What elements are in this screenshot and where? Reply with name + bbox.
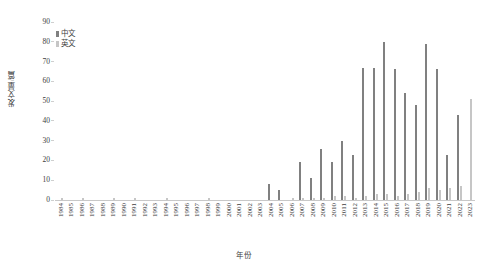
bar-en-1994 xyxy=(166,198,168,200)
bar-group xyxy=(213,22,224,200)
bar-en-2012 xyxy=(355,198,357,200)
bar-group xyxy=(307,22,318,200)
x-tick-2021: 2021 xyxy=(445,203,453,217)
legend-item-0: 中文 xyxy=(56,29,75,39)
x-tick-1985: 1985 xyxy=(67,203,75,217)
bar-group xyxy=(244,22,255,200)
bar-group xyxy=(454,22,465,200)
bar-cn-2021 xyxy=(446,155,448,200)
bar-cn-2014 xyxy=(373,68,375,201)
y-tick-90: 90 xyxy=(24,18,50,26)
bar-group xyxy=(255,22,266,200)
bar-chart: 发文量/篇 9080706050403020100 19841985198619… xyxy=(0,0,487,264)
bar-group xyxy=(234,22,245,200)
y-tick-80: 80 xyxy=(24,38,50,46)
bar-group xyxy=(360,22,371,200)
x-axis-tick-labels: 1984198519861987198819891990199119921993… xyxy=(55,203,475,247)
bar-group xyxy=(402,22,413,200)
x-tick-2014: 2014 xyxy=(372,203,380,217)
bar-group xyxy=(202,22,213,200)
x-tick-2001: 2001 xyxy=(235,203,243,217)
bar-en-2011 xyxy=(344,196,346,200)
x-tick-2009: 2009 xyxy=(319,203,327,217)
x-tick-2007: 2007 xyxy=(298,203,306,217)
x-tick-1989: 1989 xyxy=(109,203,117,217)
bar-cn-2017 xyxy=(404,93,406,200)
bar-en-1984 xyxy=(61,198,63,200)
x-tick-2011: 2011 xyxy=(340,203,348,217)
y-tick-70: 70 xyxy=(24,58,50,66)
x-tick-1986: 1986 xyxy=(78,203,86,217)
y-tick-0: 0 xyxy=(24,196,50,204)
bar-group xyxy=(160,22,171,200)
bar-cn-2004 xyxy=(268,184,270,200)
x-tick-2015: 2015 xyxy=(382,203,390,217)
x-tick-2022: 2022 xyxy=(456,203,464,217)
legend-label: 英文 xyxy=(61,39,75,49)
bar-en-2018 xyxy=(418,192,420,200)
y-tick-60: 60 xyxy=(24,77,50,85)
x-tick-2006: 2006 xyxy=(288,203,296,217)
x-tick-2003: 2003 xyxy=(256,203,264,217)
bar-cn-2016 xyxy=(394,69,396,200)
x-tick-1998: 1998 xyxy=(204,203,212,217)
chart-legend: 中文英文 xyxy=(56,29,75,49)
legend-item-1: 英文 xyxy=(56,39,75,49)
x-tick-1993: 1993 xyxy=(151,203,159,217)
bar-cn-2019 xyxy=(425,44,427,200)
y-tick-20: 20 xyxy=(24,156,50,164)
bar-en-2008 xyxy=(313,198,315,200)
bar-group xyxy=(171,22,182,200)
x-tick-2019: 2019 xyxy=(424,203,432,217)
bar-group xyxy=(286,22,297,200)
x-tick-2017: 2017 xyxy=(403,203,411,217)
bar-en-2022 xyxy=(460,186,462,200)
bar-cn-2015 xyxy=(383,42,385,200)
bar-cn-2020 xyxy=(436,69,438,200)
bar-group xyxy=(370,22,381,200)
bar-group xyxy=(76,22,87,200)
bar-group xyxy=(276,22,287,200)
x-tick-1996: 1996 xyxy=(183,203,191,217)
bar-group xyxy=(192,22,203,200)
bar-group xyxy=(423,22,434,200)
bar-group xyxy=(339,22,350,200)
bar-en-2019 xyxy=(428,188,430,200)
x-tick-1990: 1990 xyxy=(120,203,128,217)
x-axis-line xyxy=(55,200,475,201)
bar-cn-2007 xyxy=(299,162,301,200)
x-tick-2020: 2020 xyxy=(435,203,443,217)
bar-en-2006 xyxy=(292,198,294,200)
bar-group xyxy=(391,22,402,200)
x-tick-2016: 2016 xyxy=(393,203,401,217)
x-tick-1999: 1999 xyxy=(214,203,222,217)
y-axis-title: 发文量/篇 xyxy=(6,70,20,107)
x-axis-title: 年份 xyxy=(0,249,487,260)
bar-group xyxy=(465,22,476,200)
bar-group xyxy=(223,22,234,200)
bar-group xyxy=(139,22,150,200)
bar-group xyxy=(118,22,129,200)
x-tick-1995: 1995 xyxy=(172,203,180,217)
x-tick-2000: 2000 xyxy=(225,203,233,217)
bar-en-2020 xyxy=(439,190,441,200)
bar-group xyxy=(97,22,108,200)
plot-area xyxy=(55,22,475,200)
y-tick-10: 10 xyxy=(24,176,50,184)
x-tick-2023: 2023 xyxy=(466,203,474,217)
bar-group xyxy=(433,22,444,200)
bar-en-2021 xyxy=(449,188,451,200)
x-tick-2004: 2004 xyxy=(267,203,275,217)
bar-en-1991 xyxy=(134,198,136,200)
x-tick-1991: 1991 xyxy=(130,203,138,217)
bar-cn-2005 xyxy=(278,190,280,200)
x-tick-2002: 2002 xyxy=(246,203,254,217)
bar-cn-2012 xyxy=(352,155,354,200)
bar-group xyxy=(349,22,360,200)
bar-en-2009 xyxy=(323,198,325,200)
bar-group xyxy=(129,22,140,200)
bar-en-2023 xyxy=(470,99,472,200)
bar-en-2017 xyxy=(407,194,409,200)
bar-en-1989 xyxy=(113,198,115,200)
bar-group xyxy=(265,22,276,200)
